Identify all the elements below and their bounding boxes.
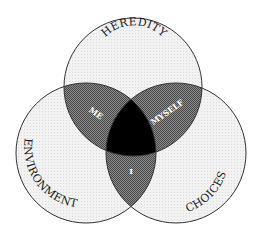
label-i: I <box>129 166 133 176</box>
venn-svg: HEREDITY ENVIRONMENT CHOICES ME MYSELF I <box>0 0 257 236</box>
venn-diagram: HEREDITY ENVIRONMENT CHOICES ME MYSELF I <box>0 0 257 236</box>
